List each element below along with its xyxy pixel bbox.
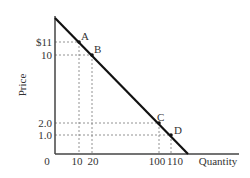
point-d [169, 133, 173, 137]
point-label-a: A [81, 30, 89, 42]
point-label-d: D [174, 124, 182, 136]
x-tick-100: 100 [149, 155, 166, 167]
demand-line [55, 18, 188, 154]
guide-lines [55, 42, 171, 154]
origin-label: 0 [44, 155, 50, 167]
y-axis-label: Price [16, 74, 28, 97]
y-tick-10: 10 [41, 49, 53, 61]
x-tick-20: 20 [88, 155, 100, 167]
x-tick-110: 110 [167, 155, 184, 167]
y-tick-2: 2.0 [38, 117, 52, 129]
y-tick-1: 1.0 [38, 129, 52, 141]
y-tick-11: $11 [36, 36, 52, 48]
point-label-b: B [94, 43, 101, 55]
point-label-c: C [157, 111, 164, 123]
x-axis-label: Quantity [199, 155, 238, 167]
demand-chart: A B C D $11 10 2.0 1.0 0 10 20 100 110 Q… [0, 0, 250, 178]
x-tick-10: 10 [72, 155, 84, 167]
